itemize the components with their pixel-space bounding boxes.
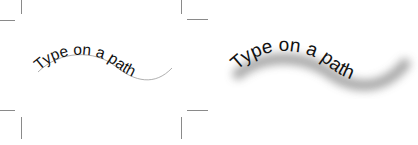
path-text-left: Type on a path: [31, 41, 139, 80]
left-path-text-group: Type on a path: [31, 41, 172, 80]
crop-marks: [0, 0, 208, 139]
illustration-canvas: Type on a path Type on a path: [0, 0, 418, 145]
right-path-text-group: Type on a path: [226, 34, 405, 85]
